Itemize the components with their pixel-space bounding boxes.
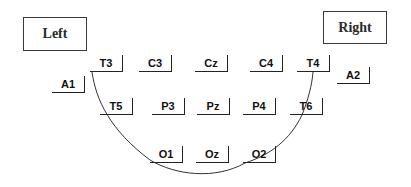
electrode-a1-button[interactable]: A1: [52, 76, 85, 93]
electrode-t6-button[interactable]: T6: [290, 98, 323, 115]
electrode-p4-button[interactable]: P4: [243, 98, 276, 115]
electrode-p3-button[interactable]: P3: [152, 98, 185, 115]
electrode-a2-button[interactable]: A2: [337, 67, 370, 84]
electrode-oz-button[interactable]: Oz: [196, 146, 229, 163]
left-side-label: Left: [23, 17, 87, 51]
electrode-c4-button[interactable]: C4: [250, 55, 283, 72]
electrode-c3-button[interactable]: C3: [139, 55, 172, 72]
electrode-pz-button[interactable]: Pz: [197, 98, 230, 115]
electrode-o1-button[interactable]: O1: [150, 146, 183, 163]
right-side-label: Right: [323, 11, 387, 44]
electrode-t5-button[interactable]: T5: [100, 98, 133, 115]
electrode-cz-button[interactable]: Cz: [195, 55, 228, 72]
electrode-o2-button[interactable]: O2: [243, 146, 276, 163]
electrode-t3-button[interactable]: T3: [90, 55, 123, 72]
electrode-t4-button[interactable]: T4: [297, 55, 330, 72]
